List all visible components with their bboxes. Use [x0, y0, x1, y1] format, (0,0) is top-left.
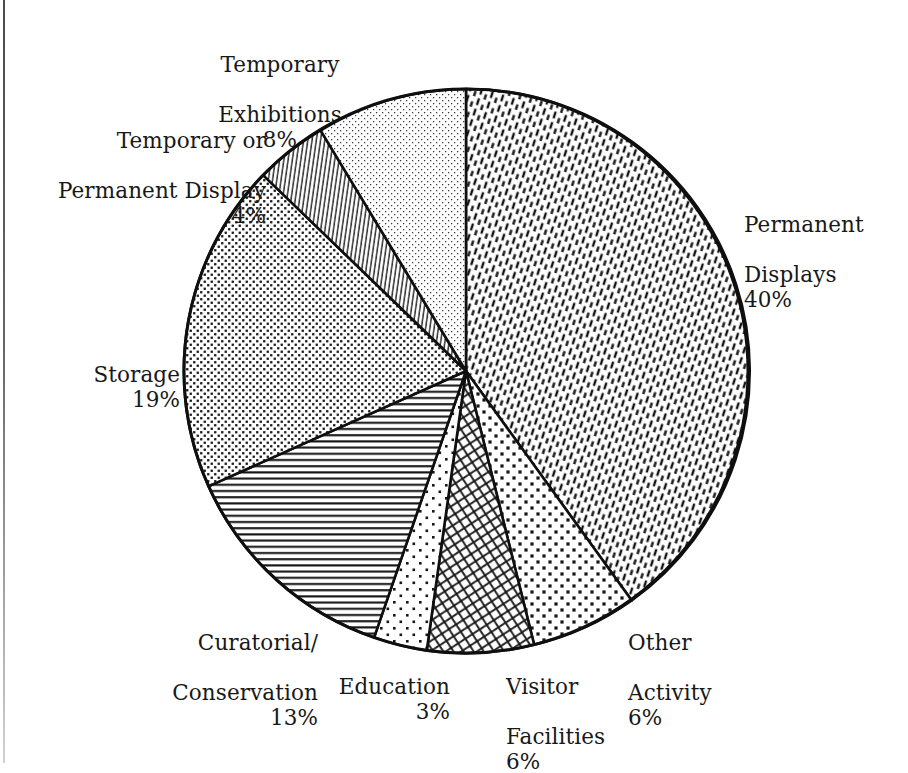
label-storage-pct: 19% [40, 388, 180, 413]
label-temp-or-perm-display-pct: 4% [40, 204, 266, 229]
label-storage: Storage 19% [40, 338, 180, 438]
label-visitor-facilities-line2: Facilities [506, 724, 605, 749]
label-education-pct: 3% [268, 700, 450, 725]
label-permanent-displays-pct: 40% [744, 288, 904, 313]
label-temp-or-perm-display-line1: Temporary or [117, 128, 266, 153]
label-temp-or-perm-display-line2: Permanent Display [58, 178, 266, 203]
label-permanent-displays: Permanent Displays 40% [744, 188, 904, 338]
label-visitor-facilities-line1: Visitor [506, 674, 579, 699]
label-other-activity-line1: Other [628, 630, 692, 655]
label-other-activity-pct: 6% [628, 706, 778, 731]
label-education: Education 3% [268, 650, 450, 750]
label-permanent-displays-line2: Displays [744, 262, 837, 287]
label-other-activity-line2: Activity [628, 680, 712, 705]
label-permanent-displays-line1: Permanent [744, 212, 864, 237]
label-temporary-exhibitions-line1: Temporary [221, 52, 340, 77]
label-education-line1: Education [339, 674, 450, 699]
label-storage-line1: Storage [93, 362, 180, 387]
label-temporary-or-permanent-display: Temporary or Permanent Display 4% [40, 104, 266, 254]
label-other-activity: Other Activity 6% [628, 606, 778, 756]
